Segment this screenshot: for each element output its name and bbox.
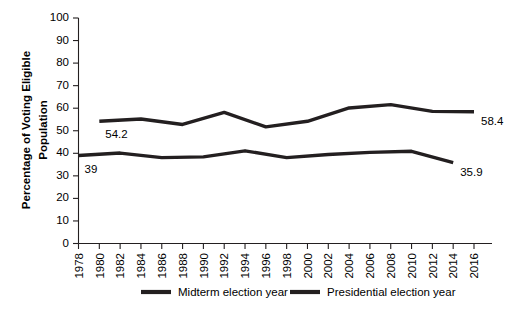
legend: Midterm election year Presidential elect… bbox=[141, 286, 456, 298]
y-tick-label: 50 bbox=[56, 124, 69, 136]
x-tick-label: 1988 bbox=[177, 253, 189, 279]
x-tick-label: 1980 bbox=[94, 253, 106, 279]
x-tick-label: 1986 bbox=[156, 253, 168, 279]
y-axis-title: Percentage of Voting Eligible Population bbox=[20, 51, 49, 209]
x-tick-label: 1994 bbox=[239, 252, 251, 278]
series-line-presidential-election-year bbox=[99, 105, 474, 127]
data-point-label: 35.9 bbox=[460, 166, 482, 178]
y-tick-label: 60 bbox=[56, 101, 69, 113]
y-tick-label: 20 bbox=[56, 191, 69, 203]
x-tick-label: 2000 bbox=[302, 253, 314, 279]
y-tick-label: 70 bbox=[56, 79, 69, 91]
series-lines bbox=[79, 105, 475, 163]
data-point-label: 54.2 bbox=[105, 128, 127, 140]
x-tick-label: 2002 bbox=[322, 253, 334, 279]
series-line-midterm-election-year bbox=[79, 151, 454, 163]
x-tick-label: 1982 bbox=[114, 253, 126, 279]
x-tick-label: 2016 bbox=[468, 253, 480, 279]
y-axis-title-line1: Percentage of Voting Eligible bbox=[20, 51, 32, 209]
line-chart: Percentage of Voting Eligible Population… bbox=[0, 0, 520, 312]
x-tick-label: 2006 bbox=[364, 253, 376, 279]
x-tick-label: 2008 bbox=[385, 253, 397, 279]
y-tick-label: 30 bbox=[56, 169, 69, 181]
x-tick-label: 1978 bbox=[73, 253, 85, 279]
x-tick-label: 2014 bbox=[447, 252, 459, 278]
legend-label-midterm: Midterm election year bbox=[178, 286, 288, 298]
y-tick-label: 100 bbox=[50, 11, 69, 23]
x-tick-label: 2010 bbox=[406, 253, 418, 279]
x-axis-ticks: 1978198019821984198619881990199219941996… bbox=[73, 244, 481, 279]
x-tick-label: 1998 bbox=[281, 253, 293, 279]
y-axis-ticks: 0102030405060708090100 bbox=[50, 11, 79, 249]
x-tick-label: 2004 bbox=[343, 252, 355, 278]
y-axis-title-line2: Population bbox=[37, 100, 49, 159]
legend-label-presidential: Presidential election year bbox=[327, 286, 456, 298]
data-point-label: 58.4 bbox=[481, 115, 504, 127]
x-tick-label: 1992 bbox=[218, 253, 230, 279]
x-tick-label: 1984 bbox=[135, 252, 147, 278]
data-point-label: 39 bbox=[85, 163, 98, 175]
y-tick-label: 10 bbox=[56, 214, 69, 226]
x-tick-label: 2012 bbox=[427, 253, 439, 279]
y-tick-label: 90 bbox=[56, 34, 69, 46]
x-tick-label: 1996 bbox=[260, 253, 272, 279]
y-tick-label: 40 bbox=[56, 146, 69, 158]
chart-container: Percentage of Voting Eligible Population… bbox=[0, 0, 520, 312]
y-tick-label: 0 bbox=[63, 237, 69, 249]
y-tick-label: 80 bbox=[56, 56, 69, 68]
x-tick-label: 1990 bbox=[198, 253, 210, 279]
